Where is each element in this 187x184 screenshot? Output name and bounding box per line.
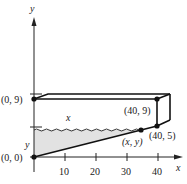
y-axis-label: y [29,3,35,14]
label-0-9: (0, 9) [1,94,23,106]
y-axis-arrow-icon [32,17,37,26]
x-tick-10: 10 [59,166,69,177]
label-40-9: (40, 9) [124,105,151,117]
point-origin [31,154,36,159]
x-axis-arrow-icon [174,155,183,160]
label-empty-height: x [65,112,71,123]
x-tick-20: 20 [90,166,100,177]
point-0-9 [31,96,36,101]
point-x-y [138,127,143,132]
label-water-height: y [24,139,30,150]
point-40-9 [154,96,159,101]
point-40-5 [154,123,159,128]
x-axis-label: x [175,162,181,173]
label-origin: (0, 0) [1,152,23,164]
label-40-5: (40, 5) [149,130,176,142]
label-x-y: (x, y) [122,136,143,148]
trough-diagram: y x 10 20 30 40 (0, 0) (0, [0,0,187,184]
x-tick-30: 30 [121,166,131,177]
x-tick-40: 40 [152,166,162,177]
